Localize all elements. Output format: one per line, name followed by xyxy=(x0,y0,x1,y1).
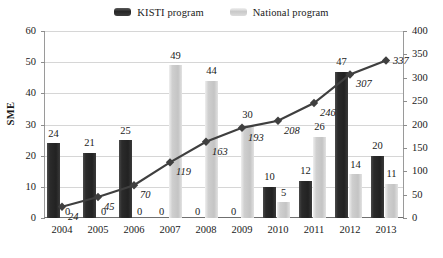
bar-value-label: 20 xyxy=(372,141,383,152)
y-axis-right-tick-label: 150 xyxy=(412,143,428,154)
chart-legend: KISTI program National program xyxy=(0,2,443,22)
y-axis-left-tick-label: 20 xyxy=(12,151,36,162)
bar-kisti xyxy=(83,153,96,218)
bar-national xyxy=(205,81,218,218)
y-axis-left-tick-label: 30 xyxy=(12,120,36,131)
bar-group: 105 xyxy=(260,31,296,218)
x-axis-tick-label: 2004 xyxy=(44,224,80,235)
x-axis-tick-label: 2010 xyxy=(260,224,296,235)
x-axis-tick-label: 2005 xyxy=(80,224,116,235)
bar-kisti xyxy=(371,156,384,218)
bar-kisti xyxy=(263,187,276,218)
legend-swatch-icon-kisti xyxy=(114,8,131,16)
y-axis-right-tick-label: 400 xyxy=(412,26,428,37)
bar-national xyxy=(241,125,254,219)
legend-label-kisti: KISTI program xyxy=(137,7,203,18)
x-axis-tick-label: 2012 xyxy=(332,224,368,235)
bar-value-label: 0 xyxy=(65,207,70,218)
bar-value-label: 24 xyxy=(48,129,59,140)
bar-group: 240 xyxy=(44,31,80,218)
x-axis-tick-label: 2013 xyxy=(368,224,404,235)
bar-group: 030 xyxy=(224,31,260,218)
y-axis-right-tick-label: 250 xyxy=(412,96,428,107)
axis-tick-left xyxy=(41,218,45,219)
bar-value-label: 21 xyxy=(84,138,95,149)
bar-value-label: 0 xyxy=(231,207,236,218)
bar-kisti xyxy=(119,140,132,218)
bar-group: 210 xyxy=(80,31,116,218)
legend-item-kisti-program: KISTI program xyxy=(114,7,203,18)
bar-group: 049 xyxy=(152,31,188,218)
legend-swatch-icon-national xyxy=(230,8,247,16)
y-axis-left-tick-label: 40 xyxy=(12,88,36,99)
bar-group: 044 xyxy=(188,31,224,218)
bar-kisti xyxy=(335,72,348,218)
bar-value-label: 30 xyxy=(242,110,253,121)
bar-value-label: 11 xyxy=(386,169,396,180)
bar-value-label: 12 xyxy=(300,166,311,177)
x-axis-tick-label: 2007 xyxy=(152,224,188,235)
bar-value-label: 0 xyxy=(195,207,200,218)
bars-layer: 240210250049044030105122647142011 xyxy=(44,31,404,218)
bar-national xyxy=(169,65,182,218)
bar-value-label: 47 xyxy=(336,57,347,68)
y-axis-left-tick-label: 0 xyxy=(12,213,36,224)
bar-group: 4714 xyxy=(332,31,368,218)
bar-value-label: 0 xyxy=(137,207,142,218)
x-axis-tick-label: 2011 xyxy=(296,224,332,235)
bar-value-label: 10 xyxy=(264,172,275,183)
y-axis-left-tick-label: 50 xyxy=(12,57,36,68)
bar-national xyxy=(313,137,326,218)
bar-value-label: 44 xyxy=(206,66,217,77)
y-axis-right-tick-label: 350 xyxy=(412,49,428,60)
axis-tick-right xyxy=(403,218,407,219)
bar-kisti xyxy=(299,181,312,218)
bar-value-label: 14 xyxy=(350,160,361,171)
y-axis-left-tick-label: 10 xyxy=(12,182,36,193)
bar-value-label: 25 xyxy=(120,126,131,137)
bar-value-label: 5 xyxy=(281,188,286,199)
bar-national xyxy=(385,184,398,218)
x-axis-tick-label: 2009 xyxy=(224,224,260,235)
bar-national xyxy=(349,174,362,218)
y-axis-right-tick-label: 0 xyxy=(412,213,417,224)
sme-program-chart: KISTI program National program SME 01020… xyxy=(0,0,443,258)
bar-value-label: 0 xyxy=(101,207,106,218)
y-axis-right-tick-label: 100 xyxy=(412,166,428,177)
bar-kisti xyxy=(47,143,60,218)
bar-group: 2011 xyxy=(368,31,404,218)
bar-group: 250 xyxy=(116,31,152,218)
y-axis-left-tick-label: 60 xyxy=(12,26,36,37)
y-axis-right-tick-label: 300 xyxy=(412,73,428,84)
x-axis-tick-label: 2006 xyxy=(116,224,152,235)
bar-value-label: 49 xyxy=(170,51,181,62)
x-axis-tick-label: 2008 xyxy=(188,224,224,235)
legend-label-national: National program xyxy=(253,7,329,18)
bar-value-label: 0 xyxy=(159,207,164,218)
x-axis-labels: 2004200520062007200820092010201120122013 xyxy=(44,224,404,235)
legend-item-national-program: National program xyxy=(230,7,329,18)
bar-group: 1226 xyxy=(296,31,332,218)
bar-value-label: 26 xyxy=(314,122,325,133)
bar-national xyxy=(277,202,290,218)
y-axis-right-tick-label: 50 xyxy=(412,190,423,201)
y-axis-right-tick-label: 200 xyxy=(412,120,428,131)
